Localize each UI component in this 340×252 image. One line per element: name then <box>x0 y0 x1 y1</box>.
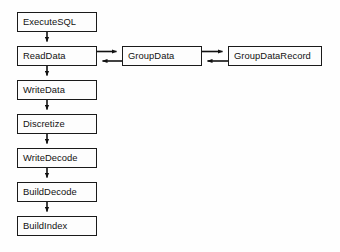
node-label-executesql: ExecuteSQL <box>23 17 76 26</box>
node-writedata[interactable]: WriteData <box>17 80 97 100</box>
node-label-writedata: WriteData <box>23 85 65 94</box>
node-groupdata[interactable]: GroupData <box>122 46 202 66</box>
node-label-readdata: ReadData <box>23 51 66 60</box>
node-discretize[interactable]: Discretize <box>17 114 97 134</box>
node-label-groupdata: GroupData <box>128 51 174 60</box>
node-executesql[interactable]: ExecuteSQL <box>17 12 97 32</box>
diagram-canvas: ExecuteSQL ReadData GroupData GroupDataR… <box>0 0 340 252</box>
node-groupdatarecord[interactable]: GroupDataRecord <box>228 46 322 66</box>
node-label-discretize: Discretize <box>23 119 65 128</box>
node-readdata[interactable]: ReadData <box>17 46 97 66</box>
node-label-buildindex: BuildIndex <box>23 221 67 230</box>
node-label-writedecode: WriteDecode <box>23 153 78 162</box>
node-builddecode[interactable]: BuildDecode <box>17 182 97 202</box>
node-writedecode[interactable]: WriteDecode <box>17 148 97 168</box>
node-label-groupdatarecord: GroupDataRecord <box>234 51 311 60</box>
node-buildindex[interactable]: BuildIndex <box>17 216 97 236</box>
node-label-builddecode: BuildDecode <box>23 187 77 196</box>
